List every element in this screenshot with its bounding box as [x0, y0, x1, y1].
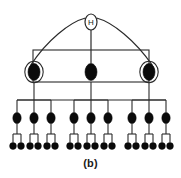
level3-node-5 [87, 112, 95, 123]
pedigree-tree-diagram: H [0, 0, 181, 178]
leaf-nodes [10, 143, 174, 150]
leaf-node-7 [67, 143, 74, 150]
leaf-node-2 [18, 143, 25, 150]
level3-node-4 [70, 112, 78, 123]
level2-node-left [28, 64, 40, 81]
root-node-label: H [88, 18, 94, 27]
leaf-node-1 [10, 143, 17, 150]
leaf-node-8 [75, 143, 82, 150]
leaf-node-12 [109, 143, 116, 150]
leaf-node-6 [52, 143, 59, 150]
leaf-node-10 [92, 143, 99, 150]
leaf-fork-edges [13, 124, 170, 143]
level3-node-7 [128, 112, 136, 123]
arc-root-to-left-icon [31, 18, 86, 66]
level2-drop-edges [34, 82, 149, 100]
level3-node-2 [30, 112, 38, 123]
leaf-node-16 [150, 143, 157, 150]
level3-stem-edges [17, 100, 166, 112]
level2-nodes [25, 61, 158, 82]
leaf-node-9 [84, 143, 91, 150]
arc-root-to-right-icon [97, 18, 153, 66]
leaf-node-4 [35, 143, 42, 150]
leaf-node-18 [167, 143, 174, 150]
level3-node-8 [145, 112, 153, 123]
leaf-node-15 [142, 143, 149, 150]
figure-container: H (b) [0, 0, 181, 178]
level3-nodes [13, 112, 170, 123]
leaf-node-3 [27, 143, 34, 150]
level3-node-6 [104, 112, 112, 123]
level3-node-9 [162, 112, 170, 123]
level2-node-center [85, 64, 97, 81]
leaf-node-17 [159, 143, 166, 150]
level2-node-right [143, 64, 155, 81]
root-node-h: H [85, 14, 97, 30]
leaf-node-13 [125, 143, 132, 150]
leaf-node-14 [133, 143, 140, 150]
level3-node-1 [13, 112, 21, 123]
level3-node-3 [47, 112, 55, 123]
leaf-node-11 [101, 143, 108, 150]
figure-caption: (b) [0, 157, 181, 169]
leaf-node-5 [44, 143, 51, 150]
